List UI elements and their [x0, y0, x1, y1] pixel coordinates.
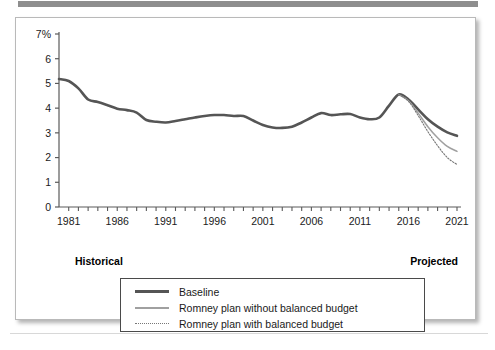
legend-item-baseline: Baseline: [121, 284, 424, 299]
legend-label-romney-without: Romney plan without balanced budget: [179, 302, 358, 314]
line-chart-plot: 7%65432101981198619911996200120062011201…: [16, 18, 475, 319]
svg-text:7%: 7%: [36, 28, 51, 40]
bottom-divider: [10, 333, 488, 334]
svg-text:4: 4: [45, 102, 51, 114]
series-line-romney-plan-without-balanced-budget: [399, 95, 457, 152]
top-decorative-band: [18, 1, 478, 7]
svg-text:2: 2: [45, 151, 51, 163]
svg-text:2011: 2011: [349, 215, 372, 227]
svg-text:1986: 1986: [106, 215, 130, 227]
svg-text:1: 1: [45, 176, 51, 188]
svg-text:6: 6: [45, 53, 51, 65]
svg-text:2001: 2001: [251, 215, 275, 227]
svg-text:0: 0: [45, 201, 51, 213]
svg-text:1991: 1991: [154, 215, 178, 227]
historical-label: Historical: [75, 255, 123, 267]
series-line-baseline: [59, 79, 457, 136]
legend-label-baseline: Baseline: [179, 286, 219, 298]
figure-panel: 7%65432101981198619911996200120062011201…: [15, 17, 476, 320]
svg-text:2021: 2021: [445, 215, 469, 227]
svg-text:1996: 1996: [203, 215, 227, 227]
legend-item-romney-with: Romney plan with balanced budget: [121, 316, 424, 331]
chart-figure-root: 7%65432101981198619911996200120062011201…: [0, 0, 495, 350]
chart-legend: Baseline Romney plan without balanced bu…: [120, 278, 425, 332]
svg-text:2016: 2016: [397, 215, 421, 227]
svg-text:5: 5: [45, 77, 51, 89]
legend-item-romney-without: Romney plan without balanced budget: [121, 300, 424, 315]
legend-swatch-romney-without-icon: [135, 302, 169, 314]
legend-swatch-romney-with-icon: [135, 318, 169, 330]
projected-label: Projected: [410, 255, 458, 267]
series-line-romney-plan-with-balanced-budget: [399, 95, 457, 165]
svg-text:2006: 2006: [300, 215, 324, 227]
svg-text:3: 3: [45, 127, 51, 139]
legend-label-romney-with: Romney plan with balanced budget: [179, 318, 343, 330]
svg-text:1981: 1981: [57, 215, 81, 227]
legend-swatch-baseline-icon: [135, 286, 169, 298]
